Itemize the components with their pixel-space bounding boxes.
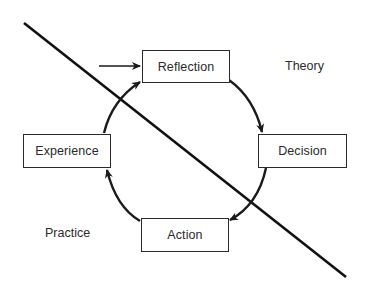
region-label-theory: Theory	[285, 59, 324, 73]
node-action-label: Action	[167, 228, 202, 242]
node-reflection: Reflection	[142, 50, 230, 83]
region-label-practice: Practice	[45, 226, 90, 240]
node-experience-label: Experience	[35, 144, 99, 158]
node-reflection-label: Reflection	[158, 60, 215, 74]
arrow-action-to-experience	[107, 170, 140, 221]
arrow-decision-to-action	[230, 168, 266, 220]
node-decision: Decision	[258, 134, 347, 168]
arrow-reflection-to-decision	[229, 80, 262, 132]
node-decision-label: Decision	[278, 144, 327, 158]
node-experience: Experience	[23, 134, 111, 168]
node-action: Action	[141, 218, 229, 252]
